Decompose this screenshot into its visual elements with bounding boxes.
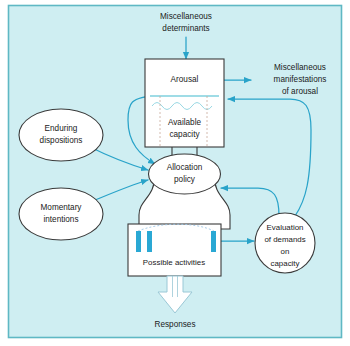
possible-activities-label: Possible activities xyxy=(143,258,205,267)
available-capacity-line1: Available xyxy=(168,118,202,127)
node-possible-activities: Possible activities xyxy=(128,224,221,276)
enduring-line1: Enduring xyxy=(45,124,78,133)
manifestations-line3: of arousal xyxy=(282,87,318,96)
determinants-line2: determinants xyxy=(162,24,209,33)
enduring-line2: dispositions xyxy=(40,136,83,145)
allocation-line2: policy xyxy=(174,175,196,184)
possible-activities-rect xyxy=(128,224,221,276)
momentary-intentions-ellipse xyxy=(19,188,103,240)
evaluation-line4: capacity xyxy=(271,259,300,268)
activity-bar xyxy=(147,231,152,252)
allocation-line1: Allocation xyxy=(167,163,203,172)
activity-bar xyxy=(211,231,216,252)
momentary-line2: intentions xyxy=(43,215,78,224)
node-evaluation-of-demands: Evaluation of demands on capacity xyxy=(255,213,315,273)
node-enduring-dispositions: Enduring dispositions xyxy=(19,109,103,161)
arousal-title: Arousal xyxy=(171,75,199,84)
node-arousal-box: Arousal Available capacity xyxy=(145,59,224,147)
responses-label: Responses xyxy=(155,320,196,329)
diagram-canvas: Arousal Available capacity Miscellaneous… xyxy=(0,0,350,346)
evaluation-line2: of demands xyxy=(264,235,305,244)
diagram-figure: Arousal Available capacity Miscellaneous… xyxy=(0,0,350,346)
determinants-line1: Miscellaneous xyxy=(160,12,212,21)
manifestations-line1: Miscellaneous xyxy=(274,63,326,72)
evaluation-line3: on xyxy=(281,247,290,256)
manifestations-line2: manifestations xyxy=(274,75,327,84)
activity-bar xyxy=(136,231,141,252)
allocation-policy-ellipse xyxy=(149,154,221,194)
momentary-line1: Momentary xyxy=(41,203,83,212)
enduring-dispositions-ellipse xyxy=(19,109,103,161)
node-momentary-intentions: Momentary intentions xyxy=(19,188,103,240)
node-allocation-policy: Allocation policy xyxy=(149,154,221,194)
available-capacity-line2: capacity xyxy=(169,130,200,139)
evaluation-line1: Evaluation xyxy=(267,223,304,232)
